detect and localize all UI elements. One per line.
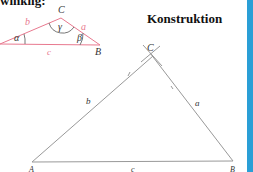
sketch-vertex-c: C <box>58 4 65 15</box>
accent-bar <box>247 0 253 172</box>
construction-side-c: c <box>131 165 135 172</box>
construction-side-a: a <box>195 98 200 108</box>
sketch-vertex-b: B <box>95 46 101 57</box>
sketch-angle-gamma: γ <box>58 21 63 32</box>
sketch-angle-beta: β <box>76 32 82 43</box>
sketch-angle-alpha: α <box>14 32 20 43</box>
triangle-diagram: C B b a c α β γ C A B b a c <box>0 0 253 172</box>
construction-side-b: b <box>86 96 91 106</box>
construction-vertex-b: B <box>230 165 235 172</box>
construction-vertex-a: A <box>28 165 34 172</box>
sketch-side-a: a <box>81 21 86 32</box>
sketch-side-b: b <box>25 16 30 27</box>
sketch-side-c: c <box>47 47 51 57</box>
construction-triangle <box>32 45 233 162</box>
construction-vertex-c: C <box>147 42 154 53</box>
